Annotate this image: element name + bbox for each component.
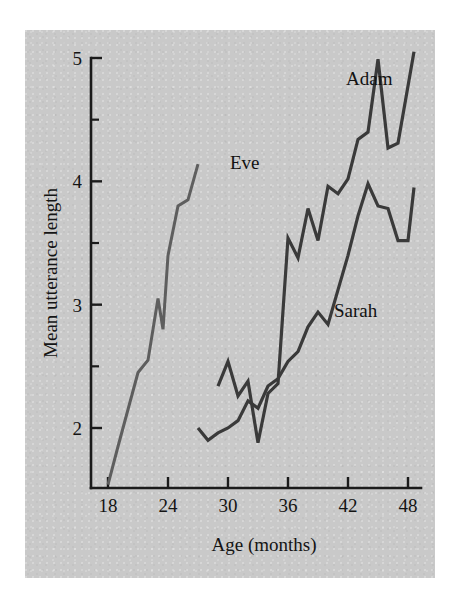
series-line-eve [108, 164, 198, 485]
x-tick-label-30: 30 [219, 495, 238, 516]
x-tick-label-42: 42 [339, 495, 358, 516]
y-tick-label-2: 2 [73, 418, 83, 439]
y-tick-label-5: 5 [73, 48, 83, 69]
x-tick-label-24: 24 [159, 495, 179, 516]
x-tick-label-18: 18 [99, 495, 118, 516]
x-tick-label-36: 36 [279, 495, 298, 516]
x-tick-label-48: 48 [399, 495, 418, 516]
y-axis-title: Mean utterance length [40, 188, 61, 358]
series-label-adam: Adam [346, 68, 393, 89]
line-chart: 2345182430364248 Age (months)Mean uttera… [0, 0, 460, 606]
data-series [108, 52, 414, 485]
y-tick-label-3: 3 [73, 295, 83, 316]
y-tick-label-4: 4 [73, 171, 83, 192]
x-axis-title: Age (months) [211, 534, 316, 556]
series-label-eve: Eve [230, 152, 260, 173]
chart-labels: Age (months)Mean utterance lengthEveSara… [40, 68, 393, 556]
chart-figure: 2345182430364248 Age (months)Mean uttera… [0, 0, 460, 606]
series-line-adam [218, 52, 414, 443]
series-label-sarah: Sarah [334, 300, 378, 321]
